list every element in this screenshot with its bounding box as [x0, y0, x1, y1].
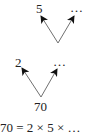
bottom-right-arrow	[41, 69, 57, 97]
bottom-right-factor: …	[53, 55, 66, 68]
top-right-factor: …	[70, 1, 83, 14]
top-left-arrow	[41, 16, 58, 43]
bottom-left-factor: 2	[15, 56, 22, 69]
factorization-equation: 70 = 2 × 5 × …	[0, 121, 88, 135]
tree-root-number: 70	[34, 100, 47, 113]
factor-tree-arrows	[0, 0, 88, 136]
top-left-factor: 5	[36, 2, 43, 15]
top-right-arrow	[58, 16, 74, 43]
bottom-left-arrow	[22, 68, 41, 97]
